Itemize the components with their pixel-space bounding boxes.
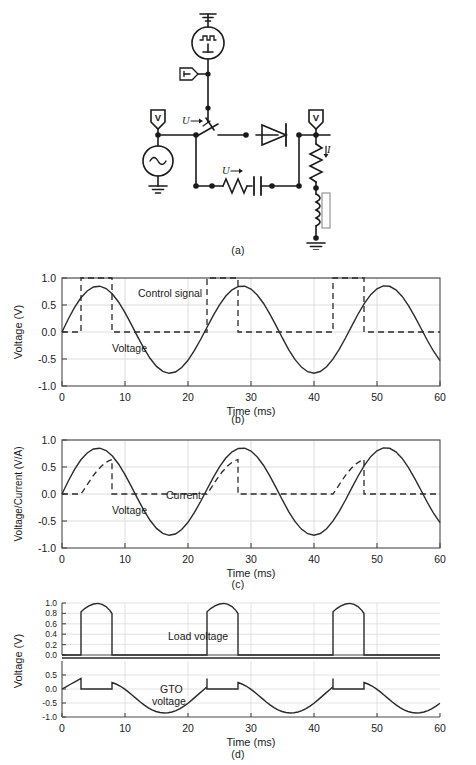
chart-b-xticks bbox=[62, 381, 440, 386]
chart-d-upper-ytick-3: 0.6 bbox=[45, 619, 57, 629]
chart-b-xtick-4: 30 bbox=[245, 391, 257, 403]
chart-c-xtick-1: 0 bbox=[59, 553, 65, 565]
chart-d-xlabel: Time (ms) bbox=[226, 736, 275, 748]
chart-d-xtick-7: 60 bbox=[434, 722, 446, 734]
chart-b-xtick-2: 10 bbox=[119, 391, 131, 403]
chart-c-ytick-4: -0.5 bbox=[38, 515, 56, 527]
panel-b-caption: (b) bbox=[0, 413, 476, 425]
circuit-schematic-svg: U V bbox=[0, 0, 476, 250]
node-dot bbox=[313, 235, 319, 241]
load-current-label: I bbox=[326, 144, 331, 155]
chart-d-upper-grid bbox=[62, 603, 440, 655]
chart-c-ytick-5: -1.0 bbox=[38, 542, 56, 554]
chart-d-upper-ytick-5: 0.2 bbox=[45, 640, 57, 650]
snubber-voltage-label: U bbox=[222, 165, 231, 176]
panel-c-caption: (c) bbox=[0, 578, 476, 590]
panel-d-caption: (d) bbox=[0, 748, 476, 760]
chart-b-ytick-4: -0.5 bbox=[38, 353, 56, 365]
gate-probe-tag bbox=[180, 68, 208, 80]
ac-voltage-source bbox=[143, 135, 173, 186]
ground-symbol-ac bbox=[149, 186, 167, 193]
chart-b-ytick-5: -1.0 bbox=[38, 380, 56, 392]
chart-b-ytick-1: 1.0 bbox=[41, 272, 56, 284]
chart-c-ytick-3: 0.0 bbox=[41, 488, 56, 500]
ground-symbol-top bbox=[200, 14, 216, 27]
chart-b-ylabel: Voltage (V) bbox=[12, 305, 24, 359]
chart-c-xtick-5: 40 bbox=[308, 553, 320, 565]
load-inductor bbox=[316, 188, 330, 238]
chart-c-ytick-1: 1.0 bbox=[41, 434, 56, 446]
panel-c-chart: Current Voltage 1.0 0.5 0.0 -0.5 -1.0 0 … bbox=[0, 430, 476, 595]
node-dot bbox=[193, 183, 199, 189]
snubber-resistor bbox=[212, 179, 252, 193]
chart-b-xtick-3: 20 bbox=[182, 391, 194, 403]
voltmeter-left: V bbox=[151, 110, 165, 129]
chart-b-xtick-5: 40 bbox=[308, 391, 320, 403]
gto-voltage-label: U bbox=[182, 115, 191, 126]
chart-b-xtick-7: 60 bbox=[434, 391, 446, 403]
chart-c-ytick-2: 0.5 bbox=[41, 461, 56, 473]
panel-a-caption: (a) bbox=[0, 244, 476, 256]
chart-b-annotation-control-signal: Control signal bbox=[138, 287, 202, 299]
chart-d-xtick-6: 50 bbox=[371, 722, 383, 734]
chart-d-svg: Load voltage 1.0 0.8 0.6 0.4 0.2 0.0 bbox=[0, 595, 476, 750]
panel-d-chart: Load voltage 1.0 0.8 0.6 0.4 0.2 0.0 bbox=[0, 595, 476, 765]
node-dot bbox=[243, 132, 249, 138]
chart-c-xticks bbox=[62, 543, 440, 548]
chart-c-annotation-current: Current bbox=[166, 489, 201, 501]
pulse-generator bbox=[192, 27, 224, 59]
node-dot bbox=[296, 132, 302, 138]
chart-d-lower-ytick-4: -1.0 bbox=[42, 712, 57, 722]
chart-c-xtick-4: 30 bbox=[245, 553, 257, 565]
voltmeter-right: V bbox=[309, 110, 323, 129]
chart-d-xtick-2: 10 bbox=[119, 722, 131, 734]
panel-b-chart: Control signal Voltage 1.0 0.5 0.0 -0.5 … bbox=[0, 268, 476, 430]
chart-d-annotation-gto-voltage-line1: GTO bbox=[160, 683, 183, 695]
chart-d-ylabel: Voltage (V) bbox=[12, 634, 24, 688]
chart-c-annotation-voltage: Voltage bbox=[112, 504, 147, 516]
chart-d-upper-ytick-4: 0.4 bbox=[45, 629, 57, 639]
load-resistor bbox=[310, 135, 322, 188]
chart-d-lower-ytick-1: 0.5 bbox=[45, 670, 57, 680]
snubber-arrow-icon bbox=[231, 169, 243, 174]
chart-c-xtick-6: 50 bbox=[371, 553, 383, 565]
chart-c-svg: Current Voltage 1.0 0.5 0.0 -0.5 -1.0 0 … bbox=[0, 430, 476, 580]
voltmeter-left-glyph: V bbox=[155, 112, 162, 123]
chart-b-svg: Control signal Voltage 1.0 0.5 0.0 -0.5 … bbox=[0, 268, 476, 418]
chart-d-xtick-1: 0 bbox=[59, 722, 65, 734]
chart-d-annotation-load-voltage: Load voltage bbox=[168, 630, 228, 642]
chart-c-ylabel: Voltage/Current (V/A) bbox=[13, 446, 24, 541]
chart-d-upper-ytick-2: 0.8 bbox=[45, 608, 57, 618]
chart-d-upper-ytick-6: 0.0 bbox=[45, 650, 57, 660]
chart-b-ytick-3: 0.0 bbox=[41, 326, 56, 338]
chart-b-xtick-1: 0 bbox=[59, 391, 65, 403]
chart-d-xtick-3: 20 bbox=[182, 722, 194, 734]
panel-a-circuit: U V bbox=[0, 0, 476, 268]
chart-d-annotation-gto-voltage-line2: voltage bbox=[152, 695, 186, 707]
chart-d-lower-ytick-2: 0.0 bbox=[45, 684, 57, 694]
chart-d-upper-ytick-1: 1.0 bbox=[45, 598, 57, 608]
chart-b-ytick-2: 0.5 bbox=[41, 299, 56, 311]
chart-c-xtick-3: 20 bbox=[182, 553, 194, 565]
gto-arrow-icon bbox=[191, 119, 203, 124]
chart-d-lower-ytick-3: -0.5 bbox=[42, 698, 57, 708]
chart-d-xtick-4: 30 bbox=[245, 722, 257, 734]
chart-b-xtick-6: 50 bbox=[371, 391, 383, 403]
chart-c-xtick-2: 10 bbox=[119, 553, 131, 565]
chart-c-xtick-7: 60 bbox=[434, 553, 446, 565]
chart-b-annotation-voltage: Voltage bbox=[112, 342, 147, 354]
chart-d-xtick-5: 40 bbox=[308, 722, 320, 734]
voltmeter-right-glyph: V bbox=[313, 112, 320, 123]
